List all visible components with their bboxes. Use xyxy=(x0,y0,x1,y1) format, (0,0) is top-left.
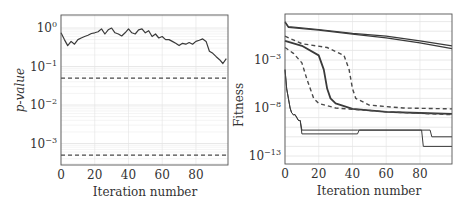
figure: 02040608010010−110−210−3 Iteration numbe… xyxy=(0,0,462,211)
right-chart: 02040608010−310−810−13 Iteration number … xyxy=(232,14,452,198)
series-line xyxy=(285,36,452,109)
right-ticks: 02040608010−310−810−13 xyxy=(249,52,428,181)
right-series xyxy=(285,22,452,147)
tick-label: 40 xyxy=(121,168,136,182)
tick-label: 60 xyxy=(379,167,394,181)
tick-label: 10−3 xyxy=(30,136,57,151)
right-x-axis-label: Iteration number xyxy=(317,184,422,198)
tick-label: 60 xyxy=(155,168,170,182)
tick-label: 40 xyxy=(345,167,360,181)
series-line xyxy=(285,70,452,137)
tick-label: 80 xyxy=(188,168,203,182)
tick-label: 20 xyxy=(311,167,326,181)
left-chart: 02040608010010−110−210−3 Iteration numbe… xyxy=(13,15,228,199)
series-line xyxy=(285,22,452,46)
series-line xyxy=(285,41,452,114)
tick-label: 0 xyxy=(281,167,289,181)
tick-label: 10−1 xyxy=(30,59,57,74)
tick-label: 10−13 xyxy=(249,148,281,163)
left-y-axis-label: p-value xyxy=(13,68,27,112)
left-plot-frame xyxy=(61,15,228,165)
tick-label: 100 xyxy=(37,20,57,35)
left-x-axis-label: Iteration number xyxy=(93,185,198,199)
series-line xyxy=(61,28,226,64)
series-line xyxy=(285,23,452,49)
left-series xyxy=(61,28,228,155)
tick-label: 10−2 xyxy=(30,97,57,112)
tick-label: 10−3 xyxy=(254,52,281,67)
tick-label: 0 xyxy=(57,168,65,182)
tick-label: 10−8 xyxy=(254,100,281,115)
tick-label: 80 xyxy=(412,167,427,181)
left-grid xyxy=(61,15,228,165)
tick-label: 20 xyxy=(87,168,102,182)
right-y-axis-label: Fitness xyxy=(232,83,246,127)
